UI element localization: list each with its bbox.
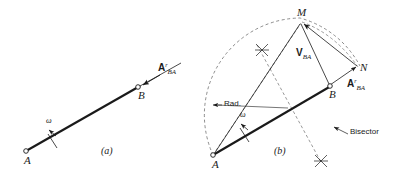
acceleration-vector-label-panel-a: ArBA [158, 62, 176, 76]
omega-label-panel-a: ω [46, 117, 52, 125]
point-label-n-panel-b: N [360, 62, 367, 73]
point-label-b-panel-b: B [329, 89, 336, 100]
panel-a-graphics [24, 63, 181, 153]
radius-annotation-label: Rad. [224, 100, 241, 108]
point-a-marker-b [211, 153, 216, 158]
vector-subscript: BA [357, 84, 366, 92]
point-label-a-panel-b: A [212, 159, 219, 170]
link-ab-a [26, 86, 140, 151]
point-label-a-panel-a: A [24, 155, 31, 166]
kinematics-figure: A B ω ArBA (a) A B M N ω VBA ArBA Rad. B… [0, 0, 395, 175]
bisector-leader-arrow-b [334, 127, 348, 134]
omega-label-panel-b: ω [240, 111, 246, 119]
velocity-vector-label-panel-b: VBA [296, 48, 311, 61]
construction-line-ma-b [214, 24, 300, 154]
arrow-n-to-m-b [304, 24, 357, 66]
vector-base-letter: V [296, 47, 303, 58]
point-label-b-panel-a: B [138, 90, 145, 101]
link-ab-b [213, 86, 331, 155]
vector-subscript: BA [168, 68, 177, 76]
panel-caption-a: (a) [101, 146, 113, 156]
acceleration-arrow-a [143, 75, 160, 85]
vector-subscript: BA [303, 53, 312, 61]
bisector-line-b [257, 45, 321, 162]
bisector-annotation-label: Bisector [350, 128, 379, 136]
point-a-marker-a [24, 149, 29, 154]
omega-arrow-b [241, 124, 248, 130]
construction-cross-lower-b [314, 155, 328, 167]
acceleration-vector-label-panel-b: ArBA [347, 78, 365, 92]
radius-arc-b [204, 18, 360, 155]
panel-caption-b: (b) [274, 146, 286, 156]
point-label-m-panel-b: M [297, 7, 306, 18]
